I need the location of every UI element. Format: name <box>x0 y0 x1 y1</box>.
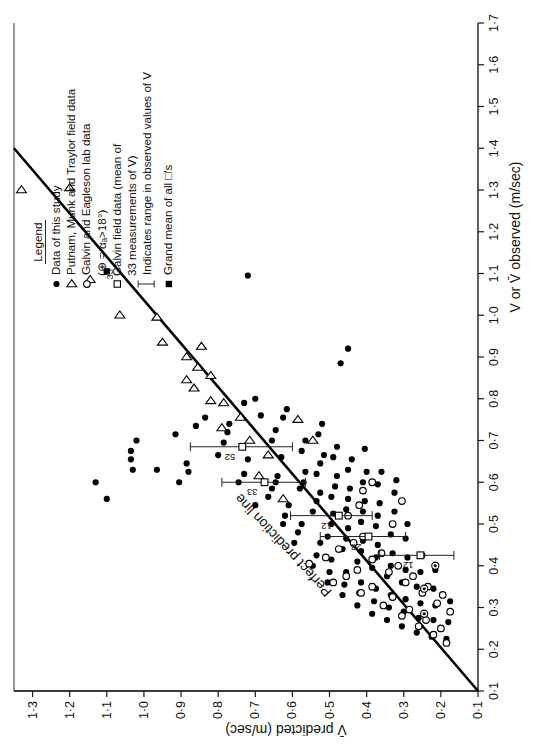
x-axis-title: V or V̄ observed (m/sec) <box>507 162 523 313</box>
marker-filled-circle <box>258 412 264 418</box>
marker-filled-circle <box>417 569 423 575</box>
marker-open-circle <box>415 623 422 630</box>
marker-circled-dot-center <box>434 564 437 567</box>
marker-filled-circle <box>414 584 420 590</box>
marker-open-triangle <box>157 338 167 345</box>
y-axis-title-group: V̄ predicted (m/sec) <box>225 722 346 738</box>
y-tick-label: 0·3 <box>397 701 411 719</box>
x-tick-label: 0·6 <box>487 473 501 491</box>
marker-filled-circle <box>362 446 368 452</box>
marker-filled-circle <box>362 498 368 504</box>
marker-open-circle <box>438 625 445 632</box>
marker-open-triangle <box>196 342 206 349</box>
marker-open-circle <box>389 521 396 528</box>
marker-filled-circle <box>345 346 351 352</box>
y-tick-label: 0·7 <box>248 701 262 719</box>
marker-filled-circle <box>104 496 110 502</box>
marker-open-circle <box>386 569 393 576</box>
marker-open-triangle <box>182 376 192 383</box>
marker-filled-circle <box>313 552 319 558</box>
marker-filled-circle <box>193 423 199 429</box>
x-tick-label: 1·2 <box>487 223 501 241</box>
marker-filled-circle <box>388 563 394 569</box>
x-tick-label: 1·5 <box>487 97 501 115</box>
legend-entry-label-2: Galvin and Eagleson lab data <box>79 123 92 275</box>
marker-filled-circle <box>310 508 316 514</box>
marker-open-circle <box>389 594 396 601</box>
marker-open-triangle <box>278 495 288 502</box>
marker-filled-circle <box>93 479 99 485</box>
marker-filled-circle <box>404 521 410 527</box>
marker-filled-circle <box>265 494 271 500</box>
x-tick-label: 1·6 <box>487 56 501 74</box>
y-tick-label: 1·3 <box>26 701 40 719</box>
marker-filled-circle <box>345 467 351 473</box>
marker-filled-circle <box>278 454 284 460</box>
marker-filled-circle <box>358 579 364 585</box>
legend: LegendData of this studyPutnam, Munk and… <box>31 72 174 288</box>
chart-page: 0·10·20·30·40·50·60·70·80·91·01·11·21·31… <box>0 0 549 745</box>
marker-open-triangle <box>219 399 229 406</box>
error-bar-count-group: 52 <box>225 452 236 463</box>
marker-filled-circle <box>315 431 321 437</box>
marker-filled-circle <box>280 414 286 420</box>
marker-filled-circle <box>295 529 301 535</box>
marker-filled-circle <box>339 592 345 598</box>
marker-filled-circle <box>391 508 397 514</box>
marker-filled-circle <box>128 456 134 462</box>
legend-entry-label-6: Indicates range in observed values of V <box>140 72 153 275</box>
marker-filled-circle <box>245 456 251 462</box>
marker-open-triangle <box>16 186 26 193</box>
marker-open-circle <box>358 590 365 597</box>
legend-entry-label-0: Data of this study <box>49 185 62 275</box>
marker-open-circle <box>406 606 413 613</box>
marker-open-triangle <box>67 280 77 287</box>
marker-open-triangle <box>308 436 318 443</box>
x-tick-label: 1·7 <box>487 14 501 32</box>
marker-filled-circle <box>360 508 366 514</box>
error-bar-count-label: 12 <box>403 560 414 571</box>
legend-entry-label-1: Putnam, Munk and Traylor field data <box>64 88 77 275</box>
figure-rotated-container: 0·10·20·30·40·50·60·70·80·91·01·11·21·31… <box>0 0 549 745</box>
marker-filled-circle <box>354 602 360 608</box>
marker-filled-circle <box>202 414 208 420</box>
marker-filled-circle <box>345 525 351 531</box>
x-tick-label: 0·1 <box>487 682 501 700</box>
marker-open-square <box>335 512 342 519</box>
scatter-plot-svg: 0·10·20·30·40·50·60·70·80·91·01·11·21·31… <box>0 0 549 745</box>
marker-open-circle <box>395 562 402 569</box>
marker-filled-circle <box>241 471 247 477</box>
x-tick-label: 0·3 <box>487 598 501 616</box>
marker-open-circle <box>430 631 437 638</box>
marker-filled-circle <box>399 623 405 629</box>
marker-open-circle <box>380 602 387 609</box>
marker-open-circle <box>434 600 441 607</box>
marker-filled-circle <box>447 598 453 604</box>
marker-filled-circle <box>241 400 247 406</box>
marker-filled-circle <box>172 431 178 437</box>
x-tick-label: 1·0 <box>487 306 501 324</box>
marker-open-circle <box>399 498 406 505</box>
y-tick-label: 0·4 <box>360 701 374 719</box>
marker-filled-circle <box>280 521 286 527</box>
y-tick-label: 0·5 <box>323 701 337 719</box>
x-tick-label: 0·4 <box>487 557 501 575</box>
marker-filled-circle <box>369 611 375 617</box>
marker-filled-circle <box>313 498 319 504</box>
marker-filled-circle <box>291 540 297 546</box>
marker-circled-dot-center <box>423 587 426 590</box>
legend-marker-open-circle <box>84 281 91 288</box>
x-tick-label: 0·5 <box>487 515 501 533</box>
marker-filled-circle <box>375 513 381 519</box>
error-bar-count-group: 33 <box>247 487 258 498</box>
error-bar-count-group: 12 <box>403 560 414 571</box>
marker-filled-circle <box>393 477 399 483</box>
marker-filled-circle <box>403 596 409 602</box>
marker-open-circle <box>336 546 343 553</box>
marker-filled-circle <box>319 421 325 427</box>
legend-marker-open-square <box>114 281 120 287</box>
y-tick-label: 1·1 <box>100 701 114 719</box>
x-tick-label: 1·1 <box>487 264 501 282</box>
x-tick-label: 0·7 <box>487 431 501 449</box>
x-tick-label: 1·4 <box>487 139 501 157</box>
